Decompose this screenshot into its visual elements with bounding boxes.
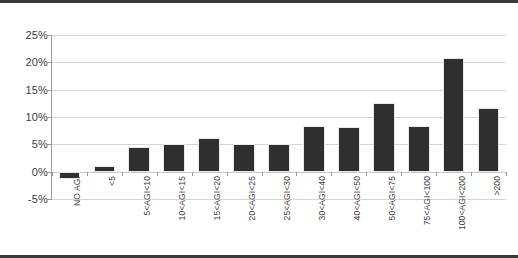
y-axis-tick-label: 10% — [4, 111, 48, 123]
x-axis-category-label: 75<AGI<100 — [422, 176, 432, 225]
x-axis-category-label: 25<AGI<30 — [282, 176, 292, 220]
x-axis-category-label: 10<AGI<15 — [177, 176, 187, 220]
bar — [373, 103, 395, 172]
x-axis-category-label: 50<AGI<75 — [387, 176, 397, 220]
y-axis-tick-label: 15% — [4, 84, 48, 96]
y-axis: -5%0%5%10%15%20%25% — [0, 3, 48, 258]
bar — [303, 126, 325, 172]
x-axis-category-label: 15<AGI<20 — [212, 176, 222, 220]
y-axis-tick-label: 5% — [4, 138, 48, 150]
bar — [338, 127, 360, 172]
chart-container: -5%0%5%10%15%20%25% NO AGI<55<AGI<1010<A… — [0, 0, 518, 258]
x-axis-category-label: 20<AGI<25 — [247, 176, 257, 220]
x-axis-category-label: 100<AGI<200 — [457, 176, 467, 230]
gridline — [52, 62, 506, 63]
bar — [163, 144, 185, 171]
y-axis-tick-label: 25% — [4, 29, 48, 41]
bar — [94, 166, 116, 172]
x-axis-category-label: 40<AGI<50 — [352, 176, 362, 220]
bar — [198, 138, 220, 171]
gridline — [52, 117, 506, 118]
bar — [443, 58, 465, 172]
x-axis-category-label: 5<AGI<10 — [142, 176, 152, 216]
gridline — [52, 35, 506, 36]
x-axis-tick-mark — [506, 172, 507, 176]
bar — [233, 144, 255, 172]
bar — [478, 108, 500, 171]
x-axis-category-label: >200 — [492, 176, 502, 196]
x-axis-category-label: NO AGI — [72, 176, 82, 206]
bar — [128, 147, 150, 172]
gridline — [52, 90, 506, 91]
x-axis-category-label: <5 — [107, 176, 117, 186]
y-axis-tick-label: -5% — [4, 193, 48, 205]
y-axis-tick-label: 20% — [4, 56, 48, 68]
x-axis-category-label: 30<AGI<40 — [317, 176, 327, 220]
x-axis-labels: NO AGI<55<AGI<1010<AGI<1515<AGI<2020<AGI… — [52, 176, 506, 256]
bar — [408, 126, 430, 171]
y-axis-tick-label: 0% — [4, 166, 48, 178]
bar — [268, 144, 290, 172]
